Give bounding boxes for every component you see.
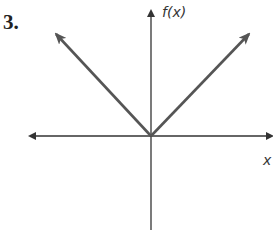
graph-canvas [0, 0, 273, 230]
absolute-value-graph [56, 34, 249, 136]
